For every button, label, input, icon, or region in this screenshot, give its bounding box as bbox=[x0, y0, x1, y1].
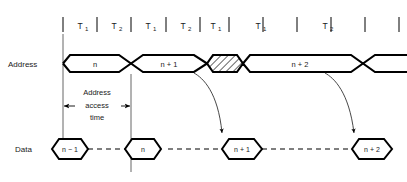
address-segment-value: n + 2 bbox=[292, 60, 309, 69]
clock-interval-base: T bbox=[210, 21, 215, 31]
access-time-line: Address bbox=[83, 88, 111, 97]
clock-interval-label: T 1 bbox=[255, 21, 267, 32]
data-cell-value: n + 1 bbox=[234, 146, 250, 153]
causality-arrow-to-data-n1 bbox=[194, 73, 222, 133]
data-row-label: Data bbox=[15, 145, 32, 154]
address-row: Address n n + 1 n + 2 bbox=[8, 55, 407, 72]
clock-interval-sub: 1 bbox=[153, 26, 157, 32]
clock-interval-label: T 2 bbox=[322, 21, 334, 32]
clock-interval-base: T bbox=[180, 21, 185, 31]
data-row: Data n − 1 n n + 1 n + 2 bbox=[15, 139, 392, 159]
data-cell-value: n − 1 bbox=[62, 146, 78, 153]
clock-interval-base: T bbox=[322, 21, 327, 31]
clock-interval-base: T bbox=[145, 21, 150, 31]
clock-interval-label: T 1 bbox=[145, 21, 157, 32]
clock-interval-sub: 1 bbox=[218, 26, 222, 32]
address-segment-value: n bbox=[93, 60, 97, 69]
clock-interval-label: T 2 bbox=[180, 21, 192, 32]
address-row-label: Address bbox=[8, 60, 37, 69]
timing-diagram: T 1 T 2 T 1 T 2 T 1 T 1 T 2 bbox=[0, 0, 407, 182]
clock-interval-sub: 2 bbox=[330, 26, 334, 32]
data-cell-value: n bbox=[141, 146, 145, 153]
clock-interval-labels: T 1 T 2 T 1 T 2 T 1 T 1 T 2 bbox=[77, 21, 334, 32]
address-segment-value: n + 1 bbox=[161, 60, 178, 69]
access-time-line: time bbox=[90, 113, 104, 122]
access-time-annotation: Address access time bbox=[64, 86, 130, 122]
clock-interval-base: T bbox=[255, 21, 260, 31]
clock-interval-label: T 2 bbox=[111, 21, 123, 32]
clock-interval-label: T 1 bbox=[210, 21, 222, 32]
data-cell-value: n + 2 bbox=[364, 146, 380, 153]
causality-arrow-to-data-n2 bbox=[325, 73, 354, 133]
clock-interval-sub: 2 bbox=[188, 26, 192, 32]
timing-diagram-canvas: T 1 T 2 T 1 T 2 T 1 T 1 T 2 bbox=[0, 0, 407, 182]
clock-interval-label: T 1 bbox=[77, 21, 89, 32]
clock-interval-base: T bbox=[77, 21, 82, 31]
causality-arrows bbox=[194, 73, 354, 133]
clock-interval-sub: 2 bbox=[119, 26, 123, 32]
access-time-line: access bbox=[85, 101, 109, 110]
clock-interval-sub: 1 bbox=[85, 26, 89, 32]
clock-interval-sub: 1 bbox=[263, 26, 267, 32]
clock-interval-base: T bbox=[111, 21, 116, 31]
